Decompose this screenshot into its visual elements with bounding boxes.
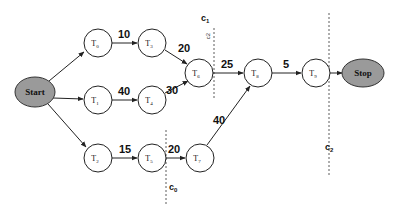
edge-start-t0 [49,52,84,81]
node-t5: T5 [138,144,166,172]
cut-c2-sub: 2 [330,147,334,153]
node-t2: T2 [84,144,112,172]
weight-t7-t8: 40 [213,114,225,126]
cut-c0-sub: 0 [174,187,178,193]
node-t7: T7 [186,144,214,172]
weight-t3-t6: 20 [178,42,190,54]
node-t4: T4 [138,86,166,114]
node-t0: T0 [84,29,112,57]
start-node: Start [15,77,55,107]
node-t8: T8 [244,59,272,87]
cut-c1-sub: 1 [206,18,210,24]
cut-label-c2: c2 [325,142,334,153]
stop-label: Stop [354,68,372,78]
cut-label-c0: c0 [169,182,178,193]
cut-label-c1: c1 [201,13,210,24]
node-t3: T3 [138,29,166,57]
start-label: Start [25,87,45,97]
weight-t1-t4: 40 [118,85,130,97]
stop-node: Stop [342,59,384,87]
weight-t0-t3: 10 [118,28,130,40]
cut-c1-rotated-note: c2 [205,32,211,39]
edge-start-t1 [53,98,83,99]
weight-t2-t5: 15 [119,143,131,155]
weight-t5-t7: 20 [168,143,180,155]
edge-start-t2 [48,104,86,147]
weight-t8-t9: 5 [283,58,289,70]
node-t1: T1 [84,86,112,114]
task-graph-diagram: 10 20 40 30 15 20 40 25 5 Start Stop T0 … [0,0,398,215]
weight-t6-t8: 25 [221,58,233,70]
node-t9: T9 [302,59,330,87]
node-t6: T6 [185,59,213,87]
weight-t4-t6: 30 [166,84,178,96]
